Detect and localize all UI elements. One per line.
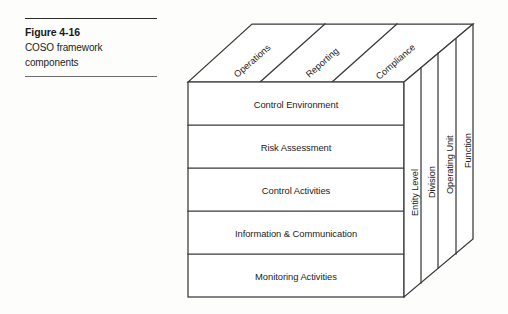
- side-label-division: Division: [427, 166, 437, 198]
- side-label-operating-unit: Operating Unit: [445, 135, 455, 194]
- front-row-control-activities: Control Activities: [188, 185, 404, 196]
- figure-page: Figure 4-16 COSO framework components: [0, 0, 508, 314]
- side-label-entity-level: Entity Level: [410, 169, 420, 216]
- coso-cube-diagram: Operations Reporting Compliance Control …: [0, 0, 508, 314]
- cube-svg: [0, 0, 508, 314]
- side-label-function: Function: [463, 133, 473, 168]
- front-row-monitoring-activities: Monitoring Activities: [188, 271, 404, 282]
- front-row-control-environment: Control Environment: [188, 99, 404, 110]
- front-row-risk-assessment: Risk Assessment: [188, 142, 404, 153]
- front-row-information-communication: Information & Communication: [188, 228, 404, 239]
